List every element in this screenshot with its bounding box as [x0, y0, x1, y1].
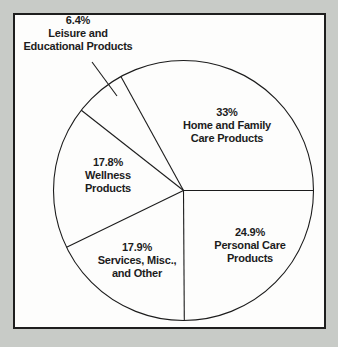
slice-pct: 6.4%	[23, 14, 132, 27]
slice-label-wellness: 17.8% Wellness Products	[85, 156, 131, 195]
slice-name-line: Products	[85, 182, 131, 195]
pie-slice-boundary	[184, 191, 185, 321]
slice-name-line: Care Products	[183, 132, 271, 145]
slice-name-line: Products	[214, 252, 285, 265]
slice-name-line: Personal Care	[214, 239, 285, 252]
leader-line-leisure	[92, 62, 117, 96]
slice-pct: 17.8%	[85, 156, 131, 169]
slice-name-line: Wellness	[85, 169, 131, 182]
slice-pct: 17.9%	[98, 241, 177, 254]
slice-label-services-misc: 17.9% Services, Misc., and Other	[98, 241, 177, 280]
slice-name-line: Educational Products	[23, 40, 132, 53]
slice-label-home-family: 33% Home and Family Care Products	[183, 106, 271, 145]
slice-label-leisure-educational: 6.4% Leisure and Educational Products	[23, 14, 132, 53]
pie-slice-boundary	[67, 191, 184, 248]
slice-name-line: and Other	[98, 267, 177, 280]
slice-label-personal-care: 24.9% Personal Care Products	[214, 226, 285, 265]
slice-name-line: Home and Family	[183, 119, 271, 132]
slice-pct: 33%	[183, 106, 271, 119]
slice-name-line: Leisure and	[23, 27, 132, 40]
slice-name-line: Services, Misc.,	[98, 254, 177, 267]
slice-pct: 24.9%	[214, 226, 285, 239]
